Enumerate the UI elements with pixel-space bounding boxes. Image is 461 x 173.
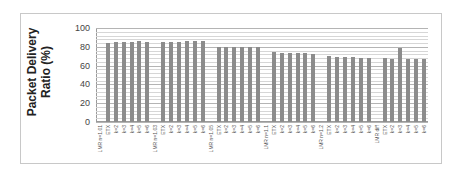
x-tick-label: k=3 [176, 125, 182, 133]
bar [201, 41, 205, 122]
bar [272, 52, 276, 122]
x-tick-label: k=3 [397, 125, 403, 133]
x-tick-label: k=4 [184, 125, 190, 133]
x-tick-label: k=4 [295, 125, 301, 133]
x-tick-label: k=3 [342, 125, 348, 133]
x-tick-label: k=2 [389, 125, 395, 133]
y-tick-label: 0 [85, 117, 90, 127]
bar [185, 41, 189, 122]
x-tick-label: ETX [216, 125, 222, 135]
plot-area [96, 28, 428, 122]
y-tick-label: 40 [80, 79, 90, 89]
bar [398, 48, 402, 122]
x-tick-label: ETX [105, 125, 111, 135]
x-tick-label: k=5 [302, 125, 308, 133]
x-tick-label: k=4 [239, 125, 245, 133]
bar [114, 42, 118, 122]
x-tick-label: ETX [160, 125, 166, 135]
bar [359, 58, 363, 122]
bar [383, 58, 387, 122]
gridline [96, 36, 428, 37]
x-tick-label: LMR n=1.03 [152, 125, 158, 152]
gridline [96, 122, 428, 123]
y-tick-label: 100 [75, 23, 90, 33]
gridline [96, 39, 428, 40]
x-tick-label: k=3 [121, 125, 127, 133]
x-tick-label: k=4 [129, 125, 135, 133]
y-tick-label: 60 [80, 61, 90, 71]
x-tick-label: k=5 [358, 125, 364, 133]
x-tick-label: k=2 [334, 125, 340, 133]
x-tick-label: LMR n=1.01 [97, 125, 103, 152]
x-tick-label: k=5 [413, 125, 419, 133]
x-tick-label: k=2 [113, 125, 119, 133]
bar [335, 57, 339, 122]
bar [343, 57, 347, 122]
bar [240, 47, 244, 122]
bar [161, 42, 165, 122]
y-axis-title-line-2: Ratio (%) [39, 28, 53, 117]
bar [288, 53, 292, 122]
x-tick-label: k=6 [200, 125, 206, 133]
bar [406, 59, 410, 122]
x-tick-label: k=4 [405, 125, 411, 133]
bar [232, 47, 236, 122]
x-tick-label: ETX [382, 125, 388, 135]
gridline [96, 28, 428, 29]
bar [256, 47, 260, 122]
bar [280, 53, 284, 122]
x-tick-label: k=2 [168, 125, 174, 133]
bar [217, 47, 221, 122]
x-tick-label: k=6 [144, 125, 150, 133]
bar [122, 42, 126, 122]
x-tick-label: k=2 [279, 125, 285, 133]
x-tick-label: LMR diff [374, 125, 380, 144]
bar [414, 59, 418, 122]
bar [351, 57, 355, 122]
bar [169, 42, 173, 122]
bar [137, 41, 141, 122]
x-tick-label: LMR n=1.1 [263, 125, 269, 150]
bar [367, 58, 371, 122]
x-tick-label: ETX [326, 125, 332, 135]
x-tick-label: k=5 [192, 125, 198, 133]
x-tick-label: LMR n=1.2 [318, 125, 324, 150]
y-tick-label: 80 [80, 42, 90, 52]
x-tick-label: LMR n=1.05 [208, 125, 214, 152]
x-tick-label: ETX [271, 125, 277, 135]
x-tick-label: k=6 [310, 125, 316, 133]
y-axis-title-line-1: Packet Delivery [25, 28, 39, 117]
bar [327, 56, 331, 122]
x-tick-label: k=3 [287, 125, 293, 133]
bar [303, 53, 307, 122]
x-tick-label: k=5 [247, 125, 253, 133]
bar [145, 42, 149, 122]
bar [106, 43, 110, 122]
bar [390, 59, 394, 122]
bar [311, 54, 315, 122]
x-tick-label: k=4 [350, 125, 356, 133]
bar [296, 53, 300, 122]
x-tick-label: k=2 [223, 125, 229, 133]
bar [177, 42, 181, 122]
x-tick-label: k=5 [136, 125, 142, 133]
bar [422, 59, 426, 122]
bar [193, 41, 197, 122]
x-tick-label: k=3 [231, 125, 237, 133]
bar [248, 47, 252, 122]
x-tick-label: k=6 [366, 125, 372, 133]
x-tick-label: k=6 [421, 125, 427, 133]
bar [224, 47, 228, 122]
y-axis-title: Packet Delivery Ratio (%) [14, 22, 64, 122]
bar [130, 42, 134, 122]
gridline [96, 32, 428, 33]
x-tick-label: k=6 [255, 125, 261, 133]
y-tick-label: 20 [80, 98, 90, 108]
